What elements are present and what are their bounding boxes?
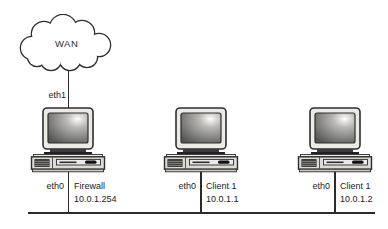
wan-cloud-label: WAN — [55, 38, 78, 49]
network-diagram: WAN eth1 eth0 Firewall 10.0.1.254 eth0 C… — [0, 0, 388, 229]
lan-drop-line — [334, 170, 336, 212]
lan-bus-line — [28, 212, 375, 214]
node-interface-label: eth0 — [156, 180, 196, 193]
lan-drop-line — [200, 170, 202, 212]
node-interface-label: eth0 — [290, 180, 330, 193]
node-ip-label: 10.0.1.254 — [74, 193, 117, 206]
node-name-label: Client 1 — [206, 180, 237, 193]
node-name-label: Firewall — [74, 180, 105, 193]
node-ip-label: 10.0.1.1 — [206, 193, 239, 206]
wan-link-line — [68, 71, 70, 109]
node-ip-label: 10.0.1.2 — [340, 193, 373, 206]
computer-client-1 — [163, 107, 239, 173]
wan-interface-label: eth1 — [26, 89, 66, 102]
node-interface-label: eth0 — [24, 180, 64, 193]
computer-firewall — [30, 107, 106, 173]
lan-drop-line — [68, 170, 70, 212]
computer-client-2 — [297, 107, 373, 173]
node-name-label: Client 1 — [340, 180, 371, 193]
